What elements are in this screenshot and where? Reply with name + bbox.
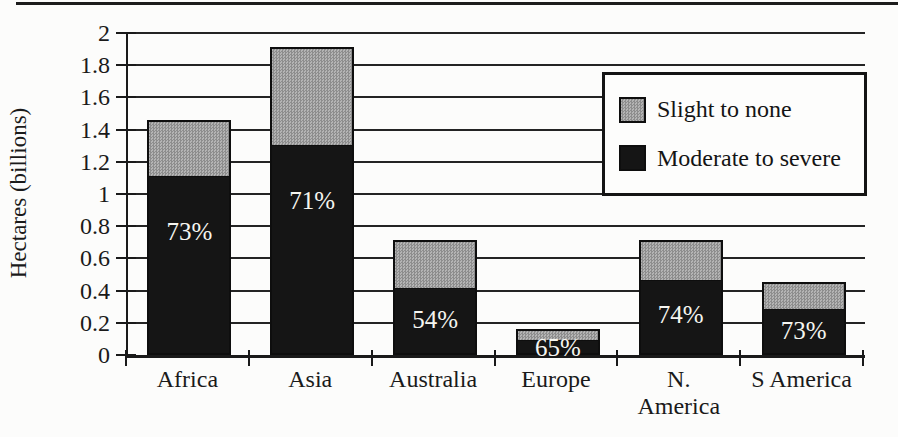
bar-segment-moderate-to-severe (149, 177, 229, 353)
legend-box: Slight to noneModerate to severe (602, 72, 867, 196)
y-axis-tick-2 (116, 32, 136, 34)
bar-segment-slight-to-none (641, 242, 721, 281)
y-axis-tick-1.2 (116, 161, 136, 163)
y-tick-label: 0.4 (50, 277, 110, 305)
bar-percent-label: 74% (641, 300, 721, 330)
page-top-rule (16, 2, 898, 5)
x-category-label-australia: Australia (363, 366, 503, 393)
bar-percent-label: 71% (272, 186, 352, 216)
bar-percent-label: 73% (149, 217, 229, 247)
x-axis-tick (371, 350, 373, 366)
bar-segment-moderate-to-severe (272, 146, 352, 353)
bar-segment-slight-to-none (149, 122, 229, 177)
gridline-0.2 (128, 322, 865, 324)
y-tick-label: 0 (50, 341, 110, 369)
legend-item: Moderate to severe (619, 145, 864, 172)
y-tick-label: 0.6 (50, 244, 110, 272)
y-axis-tick-1.4 (116, 129, 136, 131)
x-axis-tick (494, 350, 496, 366)
y-axis-tick-0.6 (116, 257, 136, 259)
x-axis-tick (125, 350, 127, 366)
y-tick-label: 0.2 (50, 309, 110, 337)
y-tick-label: 2 (50, 19, 110, 47)
x-axis-tick (862, 350, 864, 366)
bar-africa: 73% (147, 120, 231, 355)
y-axis-tick-1 (116, 193, 136, 195)
y-tick-label: 1 (50, 180, 110, 208)
bar-segment-slight-to-none (272, 49, 352, 146)
bar-europe: 65% (516, 329, 600, 355)
bar-n-america: 74% (639, 240, 723, 355)
x-axis-tick (616, 350, 618, 366)
gridline-1.8 (128, 64, 865, 66)
x-category-label-s-america: S America (732, 366, 872, 393)
y-axis-tick-0.2 (116, 322, 136, 324)
legend-swatch-slight-to-none (619, 97, 646, 123)
bar-percent-label: 54% (395, 305, 475, 335)
x-category-label-n-america: N. America (609, 366, 749, 420)
gridline-0.6 (128, 257, 865, 259)
legend-item-label: Slight to none (657, 96, 792, 123)
x-axis-tick (248, 350, 250, 366)
y-axis-tick-1.6 (116, 96, 136, 98)
bar-s-america: 73% (762, 282, 846, 355)
y-tick-label: 1.8 (50, 51, 110, 79)
bar-percent-label: 73% (764, 316, 844, 346)
gridline-0.4 (128, 290, 865, 292)
gridline-2 (128, 32, 865, 34)
bar-segment-slight-to-none (764, 284, 844, 310)
y-axis-tick-0.8 (116, 225, 136, 227)
x-category-label-asia: Asia (240, 366, 380, 393)
x-category-label-europe: Europe (486, 366, 626, 393)
x-axis-tick (739, 350, 741, 366)
y-axis-title: Hectares (billions) (6, 18, 32, 368)
legend-swatch-moderate-to-severe (619, 145, 646, 171)
legend-item: Slight to none (619, 96, 864, 123)
figure-canvas: Hectares (billions) 00.20.40.60.811.21.4… (0, 0, 898, 437)
y-tick-label: 1.2 (50, 148, 110, 176)
y-tick-label: 1.4 (50, 116, 110, 144)
bar-asia: 71% (270, 47, 354, 355)
y-axis-tick-0.4 (116, 290, 136, 292)
bar-percent-label: 65% (518, 333, 598, 363)
legend-item-label: Moderate to severe (657, 145, 841, 172)
x-category-label-africa: Africa (117, 366, 257, 393)
y-axis-tick-1.8 (116, 64, 136, 66)
gridline-0.8 (128, 225, 865, 227)
bar-segment-slight-to-none (395, 242, 475, 289)
y-tick-label: 1.6 (50, 83, 110, 111)
y-tick-label: 0.8 (50, 212, 110, 240)
bar-australia: 54% (393, 240, 477, 355)
